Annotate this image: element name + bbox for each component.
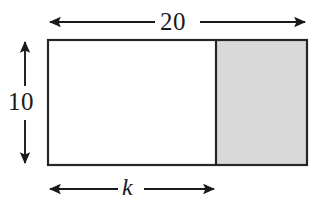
unshaded-region <box>48 40 216 165</box>
segment-dimension-label: k <box>122 175 133 199</box>
width-dimension-label: 20 <box>160 9 186 34</box>
height-dimension-label: 10 <box>8 89 34 114</box>
geometry-figure: 20 10 k <box>0 0 321 213</box>
shaded-region <box>216 40 307 165</box>
